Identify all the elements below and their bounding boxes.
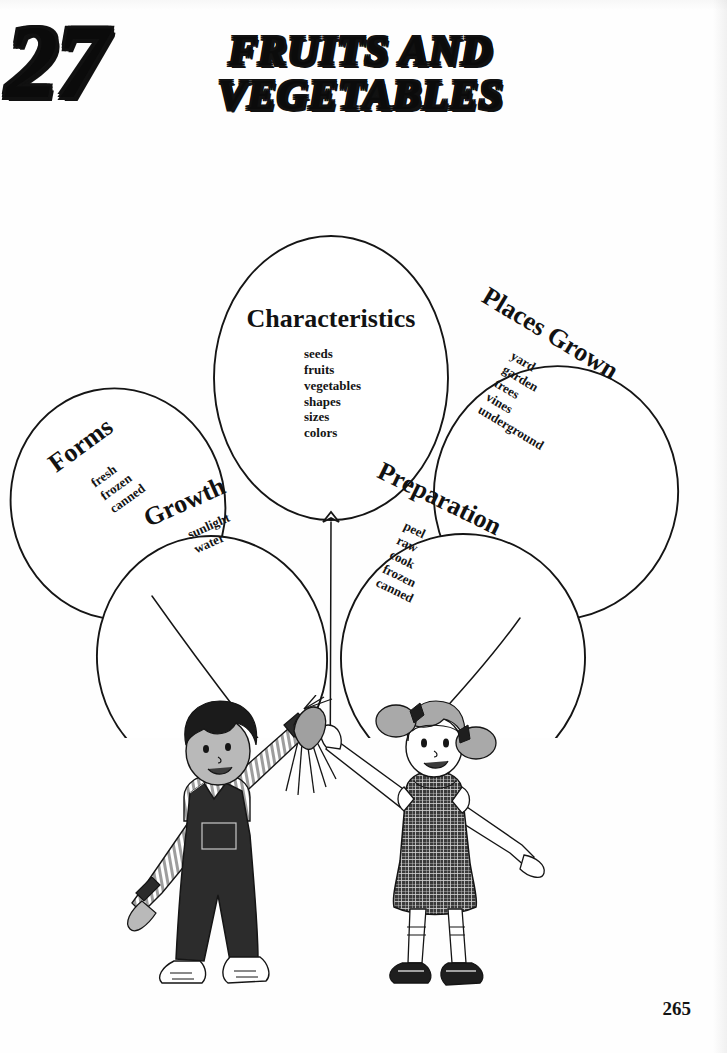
- boy-eye-right: [225, 743, 231, 751]
- children-illustration: [118, 695, 548, 1035]
- balloon-item: colors: [304, 425, 361, 441]
- girl-right-hand: [520, 855, 544, 877]
- girl-pigtail-left: [376, 705, 416, 737]
- title-line-1: FRUITS AND: [186, 30, 536, 74]
- balloon-item: fruits: [304, 362, 361, 378]
- balloon-items-characteristics: seeds fruits vegetables shapes sizes col…: [304, 346, 361, 441]
- children-drawing: [118, 695, 548, 1035]
- girl-shoe-right: [441, 963, 483, 985]
- girl-leg-right: [448, 909, 466, 963]
- balloon-cluster-diagram: Characteristics seeds fruits vegetables …: [0, 118, 727, 738]
- page-header: 27 FRUITS AND VEGETABLES: [0, 0, 727, 130]
- boy-overalls: [176, 783, 258, 961]
- girl-leg-left: [408, 909, 426, 963]
- girl-eye-left: [421, 739, 427, 748]
- page-title: FRUITS AND VEGETABLES: [186, 30, 536, 117]
- boy-shoe-right: [223, 957, 269, 983]
- boy-shoe-left: [160, 961, 206, 983]
- girl-figure: [321, 701, 544, 985]
- boy-figure: [128, 701, 324, 983]
- girl-eye-right: [443, 739, 449, 748]
- boy-left-hand: [128, 901, 156, 931]
- balloon-title-characteristics: Characteristics: [247, 306, 416, 332]
- chapter-number: 27: [6, 10, 106, 114]
- girl-shoe-left: [390, 963, 431, 983]
- balloon-item: vegetables: [304, 378, 361, 394]
- title-line-2: VEGETABLES: [186, 74, 536, 118]
- textbook-page: 27 FRUITS AND VEGETABLES: [0, 0, 727, 1053]
- balloon-item: shapes: [304, 394, 361, 410]
- page-number: 265: [663, 998, 692, 1020]
- balloon-item: sizes: [304, 409, 361, 425]
- boy-eye-left: [203, 745, 209, 753]
- balloon-item: seeds: [304, 346, 361, 362]
